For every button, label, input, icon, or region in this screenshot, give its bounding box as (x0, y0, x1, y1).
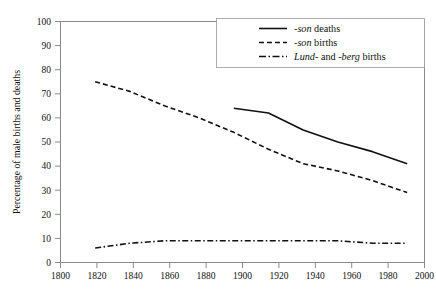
x-axis-ticks (61, 263, 425, 269)
legend-label-son-deaths: -son deaths (294, 23, 340, 34)
series-line-son-deaths (234, 108, 407, 163)
y-tick-label: 80 (42, 65, 52, 75)
legend-label-lund-berg-births: Lund- and -berg births (293, 51, 386, 62)
y-tick-label: 60 (42, 113, 52, 123)
x-tick-label: 1960 (342, 271, 361, 281)
y-axis-ticks (55, 22, 61, 263)
series-line-lund-berg-births (95, 241, 407, 248)
x-tick-label: 1920 (269, 271, 288, 281)
x-tick-label: 2000 (415, 271, 434, 281)
chart-legend: -son deaths -son births Lund- and -berg … (217, 19, 425, 68)
series-group (95, 82, 407, 248)
line-chart: 100 90 80 70 60 50 40 30 20 10 0 Percent… (0, 0, 436, 296)
y-tick-label: 30 (42, 186, 52, 196)
chart-container: 100 90 80 70 60 50 40 30 20 10 0 Percent… (0, 0, 436, 296)
y-tick-label: 90 (42, 41, 52, 51)
series-line-son-births (95, 82, 407, 193)
y-axis-tick-labels: 100 90 80 70 60 50 40 30 20 10 0 (37, 17, 52, 268)
y-tick-label: 20 (42, 210, 52, 220)
x-tick-label: 1980 (379, 271, 398, 281)
x-tick-label: 1880 (197, 271, 216, 281)
x-tick-label: 1840 (124, 271, 143, 281)
x-axis-tick-labels: 1800 1820 1840 1860 1880 1900 1920 1940 … (51, 271, 434, 281)
y-tick-label: 70 (42, 89, 52, 99)
x-tick-label: 1940 (306, 271, 325, 281)
y-tick-label: 50 (42, 137, 52, 147)
x-tick-label: 1900 (233, 271, 252, 281)
y-tick-label: 100 (37, 17, 52, 27)
y-tick-label: 40 (42, 161, 52, 171)
x-tick-label: 1860 (160, 271, 179, 281)
y-axis-title: Percentage of male births and deaths (11, 70, 22, 214)
legend-label-son-births: -son births (294, 37, 337, 48)
x-tick-label: 1800 (51, 271, 70, 281)
y-tick-label: 0 (46, 258, 51, 268)
x-tick-label: 1820 (87, 271, 106, 281)
y-tick-label: 10 (42, 234, 52, 244)
